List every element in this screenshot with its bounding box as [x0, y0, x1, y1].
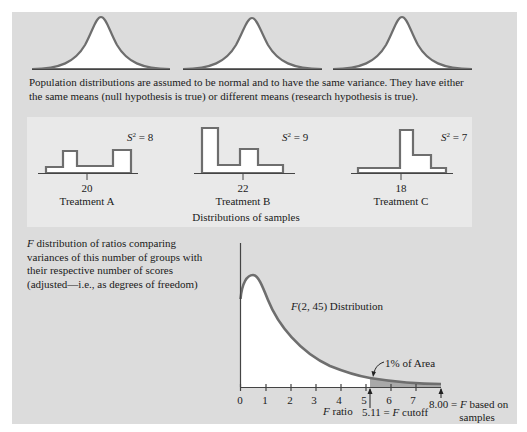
variance-label-c: S2 = 7: [441, 131, 467, 144]
cutoff-label: 5.11 = F cutoff: [362, 406, 428, 419]
mean-c: 18: [396, 182, 407, 195]
treatment-b-label: Treatment B: [216, 195, 271, 208]
x-axis-label: F ratio: [323, 405, 353, 418]
tick-1: 1: [262, 394, 268, 407]
observed-f-label-line2: samples: [459, 411, 494, 424]
tick-2: 2: [287, 394, 293, 407]
population-caption-line2: the same means (null hypothesis is true)…: [29, 90, 418, 103]
histogram-treatment-b: [194, 128, 295, 180]
observed-f-label: 8.00 = F based on: [429, 398, 508, 411]
population-caption-line1: Population distributions are assumed to …: [29, 76, 464, 89]
tick-3: 3: [311, 394, 317, 407]
tick-0: 0: [237, 394, 243, 407]
f-curve-label: F(2, 45) Distribution: [291, 300, 383, 313]
histogram-treatment-c: [351, 130, 453, 180]
mean-b: 22: [238, 182, 249, 195]
variance-label-b: S2 = 9: [282, 131, 308, 144]
variance-label-a: S2 = 8: [127, 131, 153, 144]
population-curves: [32, 17, 472, 69]
f-description: F distribution of ratios comparing varia…: [27, 237, 202, 291]
tail-area-label: 1% of Area: [385, 357, 435, 370]
treatment-a-label: Treatment A: [60, 195, 115, 208]
population-curve-1: [32, 17, 170, 69]
histogram-treatment-a: [38, 150, 138, 180]
mean-a: 20: [82, 182, 93, 195]
treatment-c-label: Treatment C: [374, 195, 429, 208]
f-distribution-chart: [240, 243, 444, 408]
f-curve-fill: [241, 275, 371, 387]
samples-caption: Distributions of samples: [192, 211, 300, 224]
population-curve-3: [333, 17, 472, 69]
population-curve-2: [183, 18, 322, 69]
